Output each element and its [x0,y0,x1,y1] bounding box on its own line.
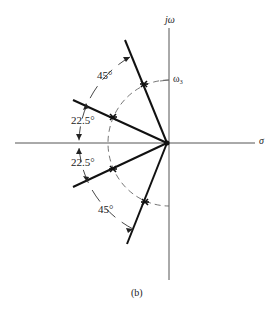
figure-caption: (b) [131,287,143,298]
pole-diagram [0,0,275,312]
arrow-icon [76,148,82,154]
angle-label-top-45: 45° [97,69,112,81]
angle-label-lower-22-5: 22.5° [71,156,95,168]
dashed-tick-top [160,80,169,81]
radius-label: ω₃ [173,73,183,84]
real-axis-label: σ [259,135,264,146]
imag-axis-label: jω [165,14,175,25]
arrow-icon [123,57,130,62]
arrow-icon [76,134,82,140]
origin-point [165,141,170,146]
angle-label-upper-22-5: 22.5° [71,114,95,126]
angle-label-bottom-45: 45° [98,203,113,215]
